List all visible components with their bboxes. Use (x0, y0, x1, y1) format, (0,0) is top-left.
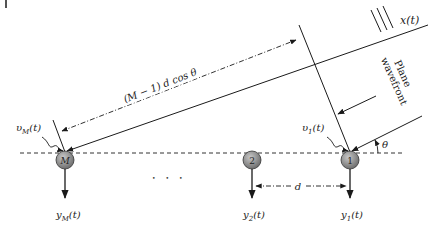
svg-text:2: 2 (249, 156, 255, 166)
noise-label-M: υM(t) (16, 122, 41, 136)
sensor-1: 1 (341, 151, 359, 169)
angle-label: θ (382, 139, 388, 150)
output-label-M: yM(t) (55, 209, 81, 223)
source-signal-label: x(t) (400, 14, 419, 27)
angle-arc (375, 140, 378, 153)
ellipsis: • • • (152, 174, 186, 181)
path-difference-arrow (62, 40, 296, 131)
svg-text:M: M (59, 156, 70, 166)
sensor-M: M (56, 151, 74, 169)
sensor-2: 2 (243, 151, 261, 169)
output-label-2: y2(t) (242, 209, 265, 223)
source-break-marks (371, 6, 393, 32)
incident-ray-to-M (67, 25, 428, 151)
noise-label-1: υ1(t) (302, 122, 324, 136)
spacing-label: d (295, 181, 301, 192)
array-diagram: x(t) Plane wavefront (M − 1) d cos θ θ υ… (0, 0, 440, 232)
path-difference-label: (M − 1) d cos θ (122, 66, 199, 105)
output-label-1: y1(t) (340, 209, 363, 223)
wavefront-at-M (53, 120, 65, 152)
wavefront-label: Plane wavefront (379, 51, 420, 107)
svg-text:1: 1 (347, 156, 353, 166)
wavefront-pointer-arrow (338, 96, 376, 114)
